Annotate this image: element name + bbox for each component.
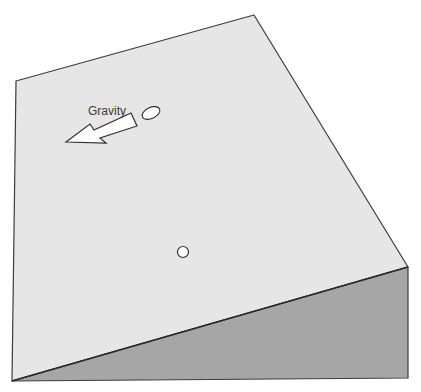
- circle-ball-icon: [178, 247, 189, 258]
- gravity-label: Gravity: [88, 104, 126, 118]
- inclined-plane-diagram: Gravity: [0, 0, 421, 392]
